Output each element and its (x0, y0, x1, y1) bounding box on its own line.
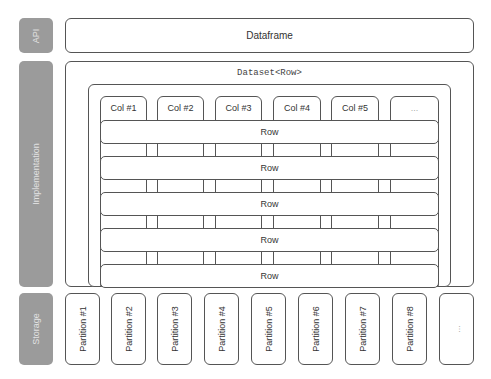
partition-label: Partition #8 (405, 306, 415, 352)
dataset-label: Dataset<Row> (88, 68, 451, 78)
dataframe-label: Dataframe (66, 19, 473, 52)
row-4: Row (100, 228, 439, 252)
column-label: Col #4 (274, 103, 320, 113)
partition-4: Partition #4 (204, 293, 239, 365)
row-5: Row (100, 264, 439, 288)
partition-2: Partition #2 (111, 293, 146, 365)
partition-more: ... (439, 293, 474, 365)
layer-label-api: API (19, 18, 53, 53)
partition-label: Partition #3 (170, 306, 180, 352)
layer-label-storage: Storage (19, 293, 53, 365)
partition-5: Partition #5 (251, 293, 286, 365)
partition-label: Partition #6 (311, 306, 321, 352)
partition-label: ... (452, 325, 462, 333)
layer-label-implementation: Implementation (19, 61, 53, 287)
partition-label: Partition #5 (264, 306, 274, 352)
column-label: Col #2 (158, 103, 203, 113)
dataframe-box: Dataframe (65, 18, 474, 53)
partition-label: Partition #4 (217, 306, 227, 352)
column-label: Col #5 (332, 103, 378, 113)
partition-6: Partition #6 (298, 293, 333, 365)
partition-1: Partition #1 (65, 293, 100, 365)
partition-8: Partition #8 (392, 293, 427, 365)
layer-label-storage-text: Storage (31, 313, 41, 345)
layer-label-api-text: API (31, 28, 41, 43)
partition-3: Partition #3 (157, 293, 192, 365)
layer-label-implementation-text: Implementation (31, 143, 41, 205)
row-3: Row (100, 192, 439, 216)
column-label: Col #1 (101, 103, 146, 113)
column-label: ... (391, 103, 438, 113)
partition-label: Partition #7 (358, 306, 368, 352)
row-2: Row (100, 156, 439, 180)
partition-label: Partition #1 (78, 306, 88, 352)
partition-label: Partition #2 (124, 306, 134, 352)
column-label: Col #3 (216, 103, 261, 113)
row-1: Row (100, 120, 439, 144)
partition-7: Partition #7 (345, 293, 380, 365)
